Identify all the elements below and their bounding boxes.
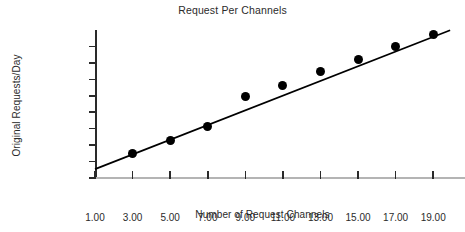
x-axis-tick xyxy=(169,171,171,179)
y-axis-tick xyxy=(89,128,95,130)
y-axis-title: Original Requests/Day xyxy=(11,31,22,181)
data-point xyxy=(354,55,363,64)
data-point xyxy=(166,136,175,145)
y-axis-tick xyxy=(89,144,95,146)
data-point xyxy=(241,92,250,101)
x-axis-tick xyxy=(395,171,397,179)
x-axis-tick xyxy=(207,171,209,179)
y-axis-tick xyxy=(89,111,95,113)
data-point xyxy=(203,122,212,131)
x-axis-tick xyxy=(432,171,434,179)
y-axis-tick xyxy=(89,161,95,163)
data-point xyxy=(128,149,137,158)
data-point xyxy=(391,42,400,51)
chart-container: Request Per Channels Original Requests/D… xyxy=(0,0,465,232)
y-axis-tick xyxy=(89,79,95,81)
y-axis-tick xyxy=(89,46,95,48)
y-axis-tick xyxy=(89,95,95,97)
y-axis-tick xyxy=(89,62,95,64)
trend-line xyxy=(95,30,460,178)
chart-title: Request Per Channels xyxy=(0,4,465,16)
x-axis-tick xyxy=(320,171,322,179)
x-axis-tick xyxy=(357,171,359,179)
x-axis-tick-label: 19.00 xyxy=(403,212,463,223)
x-axis-tick xyxy=(94,171,96,179)
x-axis-tick xyxy=(245,171,247,179)
plot-area: 0500,0001,000,0001,500,0002,500,0003,000… xyxy=(95,30,460,178)
x-axis-tick xyxy=(282,171,284,179)
x-axis-tick xyxy=(132,171,134,179)
